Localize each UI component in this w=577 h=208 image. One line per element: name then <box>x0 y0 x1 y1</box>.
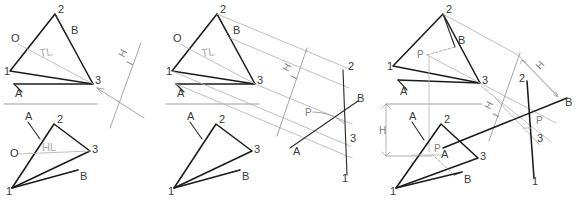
label-vertex-2-top: 2 <box>220 3 226 15</box>
label-vertex-2-top: 2 <box>446 3 452 15</box>
label-point-b-top: B <box>458 34 465 46</box>
label-vertex-1-top: 1 <box>166 65 172 77</box>
label-piercing-point-front: P <box>434 143 441 154</box>
label-point-o-top: O <box>173 32 182 44</box>
label-vertex-3-aux: 3 <box>537 132 543 144</box>
label-point-a-aux: A <box>293 145 301 157</box>
label-vertex-2-front: 2 <box>444 113 450 125</box>
label-point-a-top: A <box>15 87 23 99</box>
label-vertex-3-front: 3 <box>254 143 260 155</box>
label-point-a-top: A <box>177 87 185 99</box>
label-point-b-aux: B <box>357 92 364 104</box>
label-point-b-front: B <box>464 173 471 185</box>
label-point-o-front: O <box>10 147 19 159</box>
label-vertex-3-aux: 3 <box>350 132 356 144</box>
descriptive-geometry-figure: 2 1 3 A B O TL 2 1 3 A B O HL <box>0 0 577 208</box>
label-vertex-1-front: 1 <box>390 185 396 197</box>
label-point-a-front: A <box>25 110 33 122</box>
label-vertex-2-aux: 2 <box>348 60 354 72</box>
label-point-b-aux: B <box>565 96 572 108</box>
label-point-a-front: A <box>187 110 195 122</box>
label-true-length: TL <box>39 45 53 59</box>
label-vertex-1-top: 1 <box>4 65 10 77</box>
label-vertex-3-front: 3 <box>480 150 486 162</box>
label-piercing-point-aux: P <box>305 107 312 118</box>
label-point-b-top: B <box>71 24 78 36</box>
label-vertex-2-top: 2 <box>58 3 64 15</box>
label-horizontal-line: HL <box>42 141 56 153</box>
label-vertex-1-front: 1 <box>6 185 12 197</box>
label-vertex-1-top: 1 <box>387 60 393 72</box>
label-true-length: TL <box>201 45 215 59</box>
label-vertex-2-front: 2 <box>57 113 63 125</box>
label-vertex-2-aux: 2 <box>519 72 525 84</box>
label-vertex-1-aux: 1 <box>342 172 348 184</box>
label-vertex-3-front: 3 <box>92 143 98 155</box>
label-point-a-top: A <box>400 85 408 97</box>
label-point-o-top: O <box>11 32 20 44</box>
label-vertex-1-front: 1 <box>168 185 174 197</box>
label-point-b-top: B <box>233 24 240 36</box>
label-point-a-front: A <box>409 110 417 122</box>
label-piercing-point-top: P <box>417 49 424 60</box>
figure-root: 2 1 3 A B O TL 2 1 3 A B O HL <box>0 0 577 208</box>
label-vertex-2-front: 2 <box>219 113 225 125</box>
label-vertex-1-aux: 1 <box>532 175 538 187</box>
label-point-b-front: B <box>242 170 249 182</box>
label-point-b-front: B <box>80 170 87 182</box>
label-point-a-aux: A <box>441 148 449 160</box>
label-vertex-3-top: 3 <box>95 74 101 86</box>
label-piercing-point-aux: P <box>536 115 543 126</box>
label-height-dimension-left: H <box>379 125 386 136</box>
label-vertex-3-top: 3 <box>257 74 263 86</box>
